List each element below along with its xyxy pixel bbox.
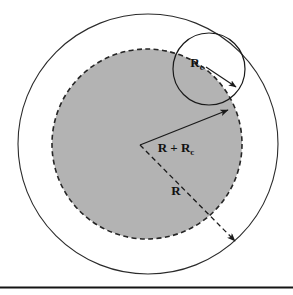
label-r: R xyxy=(171,183,181,198)
concentric-circles-diagram: Rc R + Rc R xyxy=(0,0,293,295)
label-rc: Rc xyxy=(190,55,203,72)
shaded-inner-circle xyxy=(52,49,242,239)
label-r-plus-rc: R + Rc xyxy=(158,140,195,157)
figure-container: Rc R + Rc R xyxy=(0,0,293,295)
